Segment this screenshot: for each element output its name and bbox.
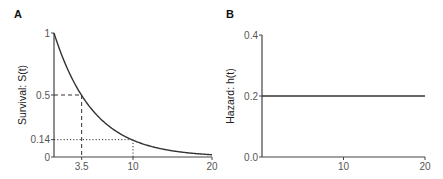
panel-letter-b: B [226,8,234,20]
y-tick-label: 0.5 [36,90,50,101]
x-tick-label: 10 [338,161,350,172]
y-axis-label: Survival: S(t) [16,65,28,125]
x-tick-label: 20 [419,161,431,172]
y-tick-label: 0.0 [244,152,258,163]
y-axis-label: Hazard: h(t) [224,68,236,123]
series-line [54,33,212,155]
y-tick-label: 0.4 [244,30,258,41]
y-tick-label: 1 [44,28,50,39]
y-tick-label: 0.14 [31,134,51,145]
x-tick-label: 3.5 [75,161,89,172]
chart-figure: A00.140.513.51020Survival: S(t)B0.00.20.… [0,0,443,179]
y-tick-label: 0 [44,152,50,163]
y-tick-label: 0.2 [244,91,258,102]
x-tick-label: 20 [206,161,218,172]
x-tick-label: 10 [127,161,139,172]
panel-letter-a: A [14,8,22,20]
